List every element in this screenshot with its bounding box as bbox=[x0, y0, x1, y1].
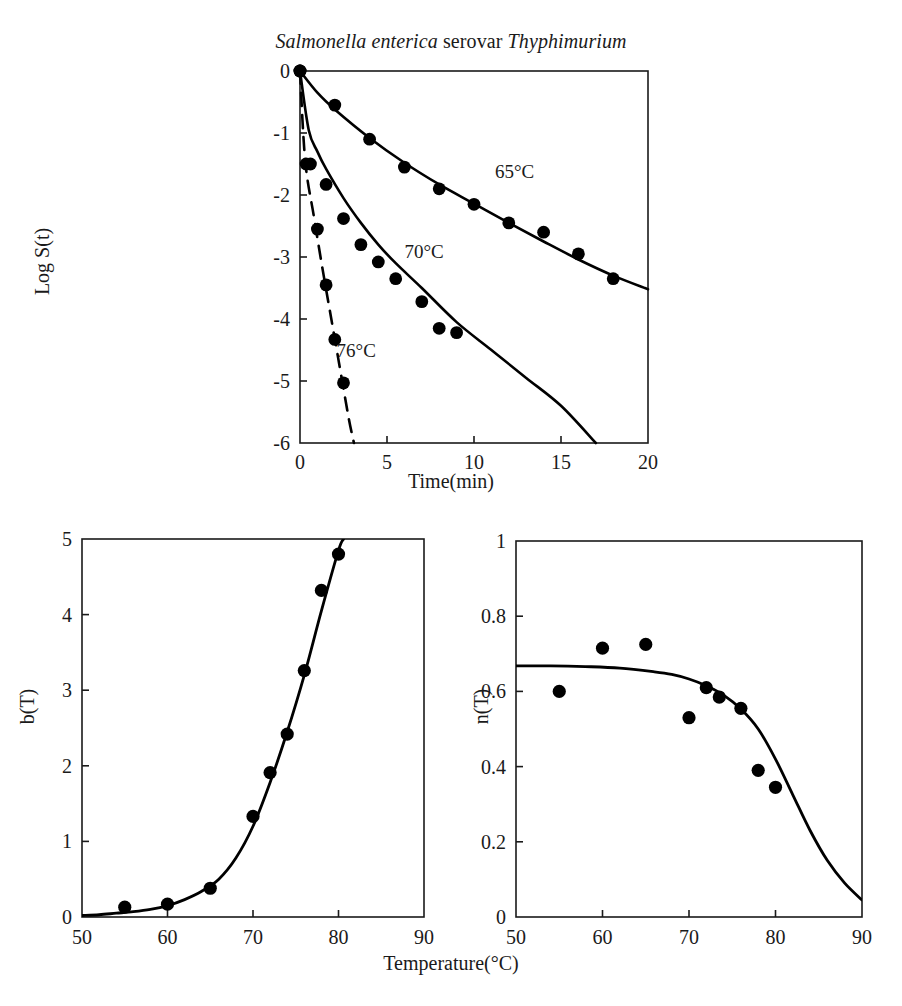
x-tick-label: 70 bbox=[679, 926, 699, 948]
y-tick-label: 4 bbox=[62, 604, 72, 626]
y-tick-label: 1 bbox=[496, 530, 506, 552]
x-tick-label: 90 bbox=[852, 926, 872, 948]
x-tick-label: 50 bbox=[72, 926, 92, 948]
x-tick-label: 50 bbox=[506, 926, 526, 948]
shared-x-axis-label: Temperature(°C) bbox=[0, 952, 902, 975]
br-y-axis-label: n(T) bbox=[470, 647, 493, 767]
panel-b-parameter: b(T) 5060708090012345 bbox=[0, 510, 451, 970]
y-tick-label: 0 bbox=[496, 906, 506, 928]
x-tick-label: 80 bbox=[329, 926, 349, 948]
top-y-axis-label: Log S(t) bbox=[31, 182, 54, 342]
y-tick-label: 5 bbox=[62, 528, 72, 550]
data-point bbox=[553, 685, 566, 698]
data-point bbox=[320, 178, 333, 191]
n-parameter-plot-svg: 506070809000.20.40.60.81 bbox=[451, 510, 902, 970]
data-point bbox=[372, 256, 385, 269]
panel-survival-curves: Salmonella enterica serovar Thyphimurium… bbox=[0, 0, 902, 510]
fit-curve bbox=[82, 539, 344, 915]
data-point bbox=[320, 279, 333, 292]
top-y-tick-label: -1 bbox=[273, 122, 290, 144]
top-y-tick-label: -2 bbox=[273, 184, 290, 206]
x-tick-label: 60 bbox=[158, 926, 178, 948]
data-point bbox=[294, 65, 307, 78]
data-point bbox=[281, 727, 294, 740]
top-y-tick-label: -3 bbox=[273, 246, 290, 268]
b-parameter-plot-svg: 5060708090012345 bbox=[0, 510, 451, 970]
x-tick-label: 60 bbox=[593, 926, 613, 948]
y-tick-label: 3 bbox=[62, 679, 72, 701]
top-y-tick-label: -5 bbox=[273, 370, 290, 392]
top-y-tick-label: -6 bbox=[273, 432, 290, 454]
survival-plot-svg: 051015200-1-2-3-4-5-665°C70°C76°C bbox=[0, 0, 902, 510]
series-annotation: 65°C bbox=[495, 161, 534, 182]
title-serovar: Thyphimurium bbox=[508, 30, 627, 52]
y-tick-label: 2 bbox=[62, 755, 72, 777]
y-tick-label: 0.8 bbox=[481, 605, 506, 627]
data-point bbox=[337, 212, 350, 225]
series-fit-line-65°C bbox=[300, 71, 648, 289]
title-connector: serovar bbox=[438, 30, 508, 52]
figure-container: Salmonella enterica serovar Thyphimurium… bbox=[0, 0, 902, 1006]
series-annotation: 76°C bbox=[337, 340, 376, 361]
data-point bbox=[264, 766, 277, 779]
bl-y-axis-label: b(T) bbox=[16, 647, 39, 767]
data-point bbox=[572, 248, 585, 261]
data-point bbox=[398, 161, 411, 174]
data-point bbox=[537, 226, 550, 239]
top-y-tick-label: -4 bbox=[273, 308, 290, 330]
y-tick-label: 0 bbox=[62, 906, 72, 928]
x-tick-label: 80 bbox=[766, 926, 786, 948]
data-point bbox=[682, 711, 695, 724]
data-point bbox=[328, 99, 341, 112]
data-point bbox=[502, 217, 515, 230]
data-point bbox=[300, 158, 313, 171]
data-point bbox=[433, 322, 446, 335]
top-y-tick-label: 0 bbox=[280, 60, 290, 82]
title-species: Salmonella enterica bbox=[275, 30, 437, 52]
data-point bbox=[468, 198, 481, 211]
panel-n-parameter: n(T) 506070809000.20.40.60.81 bbox=[451, 510, 902, 970]
top-plot-frame bbox=[300, 71, 648, 443]
data-point bbox=[607, 272, 620, 285]
data-point bbox=[769, 781, 782, 794]
data-point bbox=[332, 548, 345, 561]
data-point bbox=[355, 238, 368, 251]
x-tick-label: 90 bbox=[414, 926, 434, 948]
plot-frame bbox=[82, 539, 424, 917]
data-point bbox=[161, 898, 174, 911]
data-point bbox=[204, 882, 217, 895]
data-point bbox=[298, 664, 311, 677]
data-point bbox=[752, 764, 765, 777]
data-point bbox=[389, 272, 402, 285]
x-tick-label: 70 bbox=[243, 926, 263, 948]
data-point bbox=[700, 681, 713, 694]
y-tick-label: 0.2 bbox=[481, 831, 506, 853]
data-point bbox=[311, 223, 324, 236]
data-point bbox=[713, 690, 726, 703]
data-point bbox=[639, 638, 652, 651]
data-point bbox=[315, 584, 328, 597]
data-point bbox=[118, 901, 131, 914]
data-point bbox=[433, 182, 446, 195]
data-point bbox=[363, 133, 376, 146]
data-point bbox=[415, 295, 428, 308]
fit-curve bbox=[516, 666, 862, 900]
figure-title: Salmonella enterica serovar Thyphimurium bbox=[0, 30, 902, 53]
data-point bbox=[734, 702, 747, 715]
y-tick-label: 1 bbox=[62, 830, 72, 852]
data-point bbox=[337, 376, 350, 389]
top-x-axis-label: Time(min) bbox=[0, 470, 902, 493]
data-point bbox=[596, 642, 609, 655]
data-point bbox=[246, 810, 259, 823]
data-point bbox=[450, 326, 463, 339]
plot-frame bbox=[516, 541, 862, 917]
series-annotation: 70°C bbox=[404, 241, 443, 262]
